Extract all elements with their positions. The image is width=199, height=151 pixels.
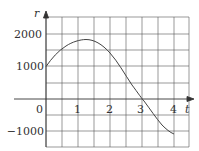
t-axis-label: t xyxy=(185,103,190,116)
x-tick-0: 0 xyxy=(36,103,43,116)
t-axis-arrow-icon xyxy=(187,97,194,102)
r-axis-label: r xyxy=(34,7,40,20)
x-tick-2: 2 xyxy=(106,103,113,116)
x-tick-3: 3 xyxy=(137,103,144,116)
x-tick-1: 1 xyxy=(74,103,81,116)
x-tick-4: 4 xyxy=(170,103,177,116)
y-tick-2000: 2000 xyxy=(14,28,42,41)
grid xyxy=(46,17,189,147)
y-tick-neg1000: −1000 xyxy=(7,125,44,138)
r-axis-arrow-icon xyxy=(44,11,49,18)
chart: r t 0 1 2 3 4 2000 1000 −1000 xyxy=(0,0,199,151)
y-tick-1000: 1000 xyxy=(16,60,44,73)
